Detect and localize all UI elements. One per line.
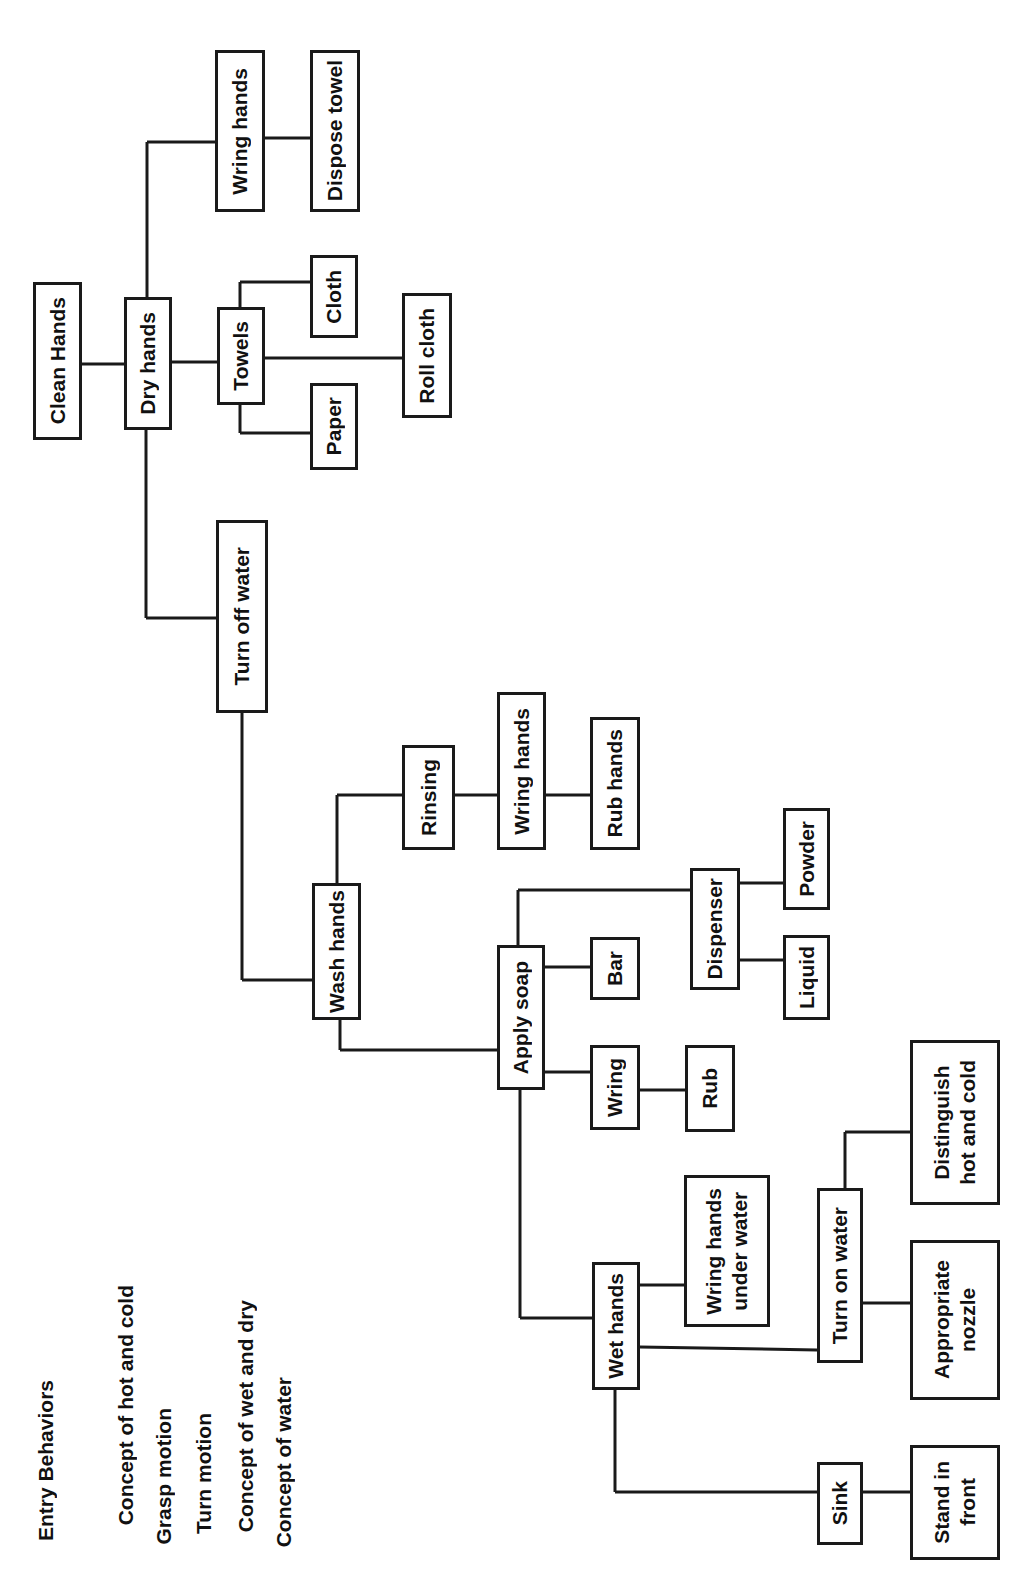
node-wring-hands-rinse: Wring hands	[497, 692, 546, 850]
node-label: Dry hands	[135, 312, 161, 415]
node-label: Dispose towel	[322, 60, 348, 201]
node-apply-soap: Apply soap	[497, 945, 545, 1090]
node-liquid: Liquid	[783, 935, 830, 1020]
node-label: Rinsing	[416, 759, 442, 836]
node-label: Cloth	[321, 270, 347, 324]
entry-behavior-item: Concept of hot and cold	[114, 1285, 138, 1525]
entry-behaviors-heading: Entry Behaviors	[34, 1380, 58, 1541]
node-label: Stand in front	[929, 1461, 981, 1544]
node-label: Powder	[794, 821, 820, 897]
node-powder: Powder	[783, 808, 830, 910]
node-label: Sink	[827, 1481, 853, 1525]
node-label: Towels	[228, 321, 254, 391]
node-sink: Sink	[817, 1462, 863, 1545]
node-dispenser: Dispenser	[690, 868, 740, 990]
node-rub-hands: Rub hands	[590, 717, 640, 850]
node-label: Apply soap	[508, 961, 534, 1074]
node-distinguish-hot-cold: Distinguish hot and cold	[910, 1040, 1000, 1205]
node-label: Rub hands	[602, 729, 628, 838]
node-label: Turn off water	[229, 547, 255, 685]
node-label: Dispenser	[702, 878, 728, 980]
node-label: Rub	[697, 1068, 723, 1109]
entry-behavior-item: Grasp motion	[152, 1408, 176, 1545]
node-dispose-towel: Dispose towel	[310, 50, 360, 212]
node-label: Wring hands	[227, 68, 253, 195]
node-label: Turn on water	[827, 1207, 853, 1344]
node-label: Appropriate nozzle	[929, 1260, 981, 1379]
node-wring: Wring	[590, 1045, 640, 1130]
node-label: Wash hands	[324, 890, 350, 1013]
node-rub: Rub	[685, 1045, 735, 1132]
node-paper: Paper	[310, 383, 358, 470]
node-rinsing: Rinsing	[402, 745, 455, 850]
entry-behavior-item: Turn motion	[192, 1413, 216, 1534]
node-label: Clean Hands	[45, 297, 71, 424]
entry-behavior-item: Concept of wet and dry	[234, 1300, 258, 1532]
node-wash-hands: Wash hands	[312, 883, 361, 1020]
node-bar: Bar	[590, 937, 640, 1000]
node-stand-in-front: Stand in front	[910, 1445, 1000, 1560]
node-clean-hands: Clean Hands	[33, 282, 82, 440]
node-wet-hands: Wet hands	[592, 1262, 640, 1390]
node-turn-on-water: Turn on water	[817, 1188, 863, 1363]
node-label: Distinguish hot and cold	[929, 1060, 981, 1185]
node-cloth: Cloth	[310, 255, 358, 338]
node-label: Wet hands	[603, 1273, 629, 1379]
node-label: Roll cloth	[414, 308, 440, 404]
node-roll-cloth: Roll cloth	[402, 293, 452, 418]
node-wring-hands-under-water: Wring hands under water	[684, 1175, 770, 1327]
node-label: Wring	[602, 1058, 628, 1117]
entry-behavior-item: Concept of water	[272, 1377, 296, 1547]
node-label: Paper	[321, 397, 347, 455]
node-label: Wring hands under water	[701, 1188, 753, 1315]
node-turn-off-water: Turn off water	[216, 520, 268, 713]
node-dry-hands: Dry hands	[124, 297, 172, 430]
node-label: Wring hands	[509, 708, 535, 835]
node-label: Bar	[602, 951, 628, 986]
task-analysis-diagram: Clean Hands Dry hands Wring hands Dispos…	[0, 0, 1035, 1582]
node-wring-hands-dry: Wring hands	[215, 50, 265, 212]
node-label: Liquid	[794, 946, 820, 1009]
node-towels: Towels	[217, 307, 265, 405]
node-appropriate-nozzle: Appropriate nozzle	[910, 1240, 1000, 1400]
